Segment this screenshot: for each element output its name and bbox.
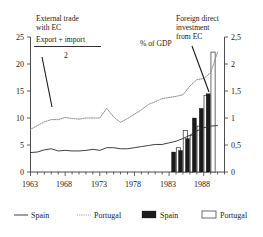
left-axis-ticks xyxy=(27,37,31,172)
bar-spain-1986 xyxy=(185,139,189,172)
fdi-leader-line xyxy=(192,46,209,92)
chart-canvas: 0 5 10 15 20 25 0 0,5 1 1,5 2 2,5 1963 1… xyxy=(0,0,263,237)
chart-figure: 0 5 10 15 20 25 0 0,5 1 1,5 2 2,5 1963 1… xyxy=(0,0,263,237)
left-tick-10: 10 xyxy=(16,114,24,123)
bar-spain-1989 xyxy=(206,94,210,172)
left-axis-labels: 0 5 10 15 20 25 xyxy=(16,33,24,177)
legend-label-portugal-line: Portugal xyxy=(94,211,122,220)
right-axis-labels: 0 0,5 1 1,5 2 2,5 xyxy=(231,33,241,177)
x-tick-1968: 1968 xyxy=(56,180,72,189)
x-axis-labels: 1963 1968 1973 1978 1983 1988 xyxy=(22,180,210,189)
external-trade-line1: External trade xyxy=(36,14,79,23)
right-tick-1-5: 1,5 xyxy=(231,87,241,96)
fdi-line1: Foreign direct xyxy=(176,14,220,23)
legend-marker-portugal-bar xyxy=(202,211,216,218)
bar-spain-1988 xyxy=(199,108,203,172)
x-axis-ticks xyxy=(31,172,225,176)
fdi-line2: investment xyxy=(176,23,210,32)
right-tick-0: 0 xyxy=(231,168,235,177)
legend-marker-spain-bar xyxy=(142,211,156,218)
fdi-line3: from EC xyxy=(176,32,202,41)
series-line-portugal xyxy=(31,52,218,129)
legend-label-spain-bar: Spain xyxy=(160,211,178,220)
bars-group xyxy=(172,52,216,172)
right-axis-ticks xyxy=(225,37,229,172)
bar-spain-1984 xyxy=(172,152,176,172)
annotation-external-trade: External trade with EC Export + import 2 xyxy=(34,14,101,107)
left-tick-5: 5 xyxy=(20,141,24,150)
right-tick-0-5: 0,5 xyxy=(231,141,241,150)
bar-spain-1987 xyxy=(192,118,196,172)
x-tick-1973: 1973 xyxy=(91,180,107,189)
external-trade-leader-line xyxy=(42,57,52,107)
legend-label-portugal-bar: Portugal xyxy=(220,211,248,220)
x-tick-1963: 1963 xyxy=(22,180,38,189)
left-tick-15: 15 xyxy=(16,87,24,96)
right-tick-2-5: 2,5 xyxy=(231,33,241,42)
right-tick-2: 2 xyxy=(231,60,235,69)
legend: Spain Portugal Spain Portugal xyxy=(14,211,248,220)
legend-label-spain-line: Spain xyxy=(31,211,49,220)
percent-of-gdp-label: % of GDP xyxy=(140,39,172,48)
x-tick-1983: 1983 xyxy=(160,180,176,189)
external-trade-numerator: Export + import xyxy=(36,35,86,44)
left-tick-0: 0 xyxy=(20,168,24,177)
external-trade-line2: with EC xyxy=(36,23,61,32)
right-tick-1: 1 xyxy=(231,114,235,123)
x-tick-1988: 1988 xyxy=(194,180,210,189)
external-trade-denominator: 2 xyxy=(64,51,68,60)
x-tick-1978: 1978 xyxy=(125,180,141,189)
left-tick-25: 25 xyxy=(16,33,24,42)
left-tick-20: 20 xyxy=(16,60,24,69)
bar-spain-1985 xyxy=(178,150,182,172)
